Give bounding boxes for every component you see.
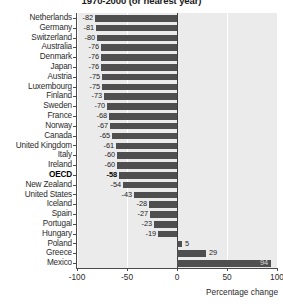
bar[interactable] [107,103,177,110]
category-label-italy: Italy [0,150,72,160]
bar-value-label: -68 [93,111,107,121]
category-label-new-zealand: New Zealand [0,180,72,190]
bar-value-label: -27 [134,209,148,219]
bar-row[interactable]: Finland-73 [0,91,283,101]
category-label-sweden: Sweden [0,101,72,111]
y-axis-tick [73,87,76,88]
bar[interactable] [149,201,177,208]
x-axis-tick-label: 50 [207,272,247,282]
bar-row[interactable]: Australia-76 [0,42,283,52]
y-axis-tick [73,165,76,166]
bar[interactable] [117,162,177,169]
chart-title: 1970-2000 (or nearest year) [0,0,283,6]
bar-value-label: -58 [103,170,117,180]
bar-value-label: 5 [185,239,189,249]
bar[interactable] [101,64,177,71]
bar[interactable] [154,221,177,228]
y-axis-tick [73,204,76,205]
bar[interactable] [104,93,177,100]
y-axis-tick [73,106,76,107]
bar-value-label: -28 [133,199,147,209]
bar-row[interactable]: OECD-58 [0,170,283,180]
bar[interactable] [177,241,182,248]
x-axis-tick-label: -100 [57,272,97,282]
bar[interactable] [102,74,177,81]
bar-value-label: -19 [142,229,156,239]
y-axis-tick [73,57,76,58]
bar-row[interactable]: Iceland-28 [0,199,283,209]
bar-value-label: -75 [86,72,100,82]
y-axis-tick [73,28,76,29]
category-label-norway: Norway [0,121,72,131]
x-axis-tick [227,268,228,271]
bar[interactable] [112,133,177,140]
y-axis-tick [73,136,76,137]
bar[interactable] [134,192,177,199]
bar-row[interactable]: Greece29 [0,248,283,258]
bar-row[interactable]: Austria-75 [0,72,283,82]
bar[interactable] [95,15,177,22]
bar[interactable] [110,123,177,130]
bar-row[interactable]: France-68 [0,111,283,121]
x-axis-tick-label: -50 [107,272,147,282]
bar[interactable] [101,44,177,51]
bar[interactable] [150,211,177,218]
y-axis-tick [73,224,76,225]
y-axis-tick [73,126,76,127]
category-label-united-kingdom: United Kingdom [0,141,72,151]
bar[interactable] [123,182,177,189]
bar[interactable] [116,143,177,150]
category-label-luxembourg: Luxembourg [0,82,72,92]
y-axis-tick [73,194,76,195]
bar-row[interactable]: Denmark-76 [0,52,283,62]
bar-value-label: -76 [85,62,99,72]
bar[interactable] [119,172,177,179]
bar-row[interactable]: Germany-81 [0,23,283,33]
bar-value-label: -76 [85,42,99,52]
bar-value-label: -60 [101,160,115,170]
bar-value-label: -76 [85,52,99,62]
category-label-finland: Finland [0,91,72,101]
bar-row[interactable]: Norway-67 [0,121,283,131]
bar-value-label: -82 [79,13,93,23]
bar-value-label: -70 [91,101,105,111]
bar[interactable] [101,54,177,61]
y-axis-tick [73,234,76,235]
bar-value-label: -80 [81,33,95,43]
bar-row[interactable]: Switzerland-80 [0,33,283,43]
y-axis-tick [73,116,76,117]
bar[interactable] [102,84,177,91]
bar-row[interactable]: New Zealand-54 [0,180,283,190]
bar-row[interactable]: Japan-76 [0,62,283,72]
x-axis-tick [277,268,278,271]
bar-value-label: -65 [96,131,110,141]
bar[interactable] [109,113,177,120]
y-axis-tick [73,214,76,215]
y-axis-tick [73,243,76,244]
category-label-mexico: Mexico [0,258,72,268]
x-axis-tick-label: 0 [157,272,197,282]
bar-row[interactable]: Luxembourg-75 [0,82,283,92]
bar[interactable] [97,35,177,42]
bar-row[interactable]: Sweden-70 [0,101,283,111]
bar-row[interactable]: Mexico94 [0,258,283,268]
bar-row[interactable]: Ireland-60 [0,160,283,170]
bar[interactable] [117,152,177,159]
bar-value-label: -54 [107,180,121,190]
bar-row[interactable]: United Kingdom-61 [0,141,283,151]
category-label-canada: Canada [0,131,72,141]
bar-row[interactable]: Poland5 [0,239,283,249]
y-axis-tick [73,253,76,254]
bar-row[interactable]: Portugal-23 [0,219,283,229]
bar[interactable] [158,231,177,238]
bar-row[interactable]: Spain-27 [0,209,283,219]
bar-row[interactable]: Hungary-19 [0,229,283,239]
bar-row[interactable]: Italy-60 [0,150,283,160]
category-label-ireland: Ireland [0,160,72,170]
bar-row[interactable]: Canada-65 [0,131,283,141]
bar[interactable] [96,25,177,32]
bar-row[interactable]: Netherlands-82 [0,13,283,23]
category-label-denmark: Denmark [0,52,72,62]
bar-row[interactable]: United States-43 [0,190,283,200]
bar[interactable] [177,250,206,257]
